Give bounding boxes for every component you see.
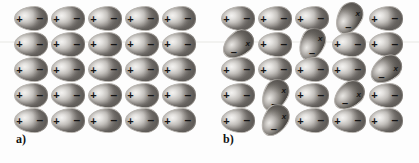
- minus-charge-icon: –: [342, 97, 348, 108]
- plus-charge-icon: +: [127, 13, 133, 24]
- plus-charge-icon: +: [164, 115, 170, 126]
- minus-charge-icon: –: [243, 12, 250, 24]
- dipole-cell: +–: [332, 108, 369, 134]
- cross-into-page-icon: x: [394, 65, 398, 73]
- dipole-cell: +–: [51, 32, 88, 58]
- plus-charge-icon: +: [90, 39, 96, 50]
- dipole-cell: +–: [51, 57, 88, 83]
- minus-charge-icon: –: [243, 89, 250, 101]
- dipole-aligned: +–: [295, 57, 329, 82]
- plus-charge-icon: +: [371, 13, 377, 24]
- plus-charge-icon: +: [16, 115, 22, 126]
- dipole-aligned: +–: [369, 108, 403, 133]
- dipole-aligned: +–: [125, 57, 159, 82]
- plus-charge-icon: +: [260, 13, 266, 24]
- dipole-aligned: +–: [125, 108, 159, 133]
- dipole-aligned: +–: [14, 57, 48, 82]
- dipole-cell: +–: [369, 83, 406, 109]
- dipole-cell: +–: [51, 6, 88, 32]
- dipole-aligned: +–: [51, 108, 85, 133]
- plus-charge-icon: +: [164, 39, 170, 50]
- dipole-aligned: +–: [162, 57, 196, 82]
- plus-charge-icon: +: [16, 39, 22, 50]
- dipole-cell: +–: [369, 6, 406, 32]
- dipole-cell: +–: [125, 57, 162, 83]
- minus-charge-icon: –: [280, 63, 287, 75]
- dipole-cell: –x: [258, 108, 295, 134]
- minus-charge-icon: –: [184, 89, 191, 101]
- plus-charge-icon: +: [371, 115, 377, 126]
- minus-charge-icon: –: [391, 89, 398, 101]
- dipole-aligned: +–: [162, 83, 196, 108]
- minus-charge-icon: –: [36, 63, 43, 75]
- dipole-aligned: +–: [88, 108, 122, 133]
- minus-charge-icon: –: [230, 46, 236, 57]
- panel-b-label: b): [223, 132, 234, 147]
- plus-charge-icon: +: [297, 90, 303, 101]
- cross-into-page-icon: x: [246, 39, 250, 47]
- minus-charge-icon: –: [317, 63, 324, 75]
- plus-charge-icon: +: [53, 64, 59, 75]
- plus-charge-icon: +: [90, 13, 96, 24]
- minus-charge-icon: –: [354, 114, 361, 126]
- plus-charge-icon: +: [53, 90, 59, 101]
- dipole-cell: +–: [162, 6, 199, 32]
- plus-charge-icon: +: [53, 13, 59, 24]
- dipole-cell: –x: [332, 83, 369, 109]
- minus-charge-icon: –: [73, 12, 80, 24]
- minus-charge-icon: –: [391, 38, 398, 50]
- plus-charge-icon: +: [164, 13, 170, 24]
- dipole-cell: +–: [332, 32, 369, 58]
- minus-charge-icon: –: [243, 114, 250, 126]
- dipole-aligned: +–: [14, 32, 48, 57]
- plus-charge-icon: +: [53, 115, 59, 126]
- dipole-cell: +–: [14, 83, 51, 109]
- minus-charge-icon: –: [147, 114, 154, 126]
- plus-charge-icon: +: [16, 90, 22, 101]
- minus-charge-icon: –: [280, 38, 287, 50]
- minus-charge-icon: –: [317, 114, 324, 126]
- plus-charge-icon: +: [223, 90, 229, 101]
- dipole-aligned: +–: [88, 32, 122, 57]
- dipole-aligned: +–: [51, 32, 85, 57]
- dipole-cell: +–: [258, 32, 295, 58]
- plus-charge-icon: +: [127, 39, 133, 50]
- minus-charge-icon: –: [36, 38, 43, 50]
- dipole-aligned: +–: [88, 83, 122, 108]
- dipole-cell: +–: [295, 83, 332, 109]
- dipole-cell: +–: [125, 108, 162, 134]
- plus-charge-icon: +: [334, 39, 340, 50]
- dipole-aligned: +–: [369, 83, 403, 108]
- dipole-aligned: +–: [51, 83, 85, 108]
- dipole-cell: +–: [14, 57, 51, 83]
- dipole-aligned: +–: [125, 32, 159, 57]
- panel-b: +–+–+––x+––x+––x+–+–+–+–+–+––x+––x+––x+–…: [221, 0, 407, 130]
- cross-into-page-icon: x: [355, 10, 359, 18]
- plus-charge-icon: +: [260, 64, 266, 75]
- dipole-aligned: +–: [162, 108, 196, 133]
- dipole-cell: +–: [162, 108, 199, 134]
- minus-charge-icon: –: [147, 63, 154, 75]
- plus-charge-icon: +: [16, 64, 22, 75]
- minus-charge-icon: –: [280, 12, 287, 24]
- dipole-aligned: +–: [162, 32, 196, 57]
- minus-charge-icon: –: [147, 89, 154, 101]
- dipole-cell: –x: [221, 32, 258, 58]
- minus-charge-icon: –: [110, 12, 117, 24]
- minus-charge-icon: –: [184, 63, 191, 75]
- dipole-grid-b: +–+–+––x+––x+––x+–+–+–+–+–+––x+––x+––x+–…: [221, 0, 407, 130]
- panel-a-label: a): [16, 132, 26, 147]
- dipole-aligned: +–: [125, 83, 159, 108]
- dipole-aligned: +–: [295, 108, 329, 133]
- minus-charge-icon: –: [391, 12, 398, 24]
- dipole-aligned: +–: [221, 108, 255, 133]
- minus-charge-icon: –: [110, 114, 117, 126]
- dipole-cell: +–: [162, 32, 199, 58]
- cross-into-page-icon: x: [318, 35, 322, 43]
- minus-charge-icon: –: [147, 38, 154, 50]
- dipole-cell: +–: [162, 57, 199, 83]
- minus-charge-icon: –: [391, 114, 398, 126]
- plus-charge-icon: +: [90, 64, 96, 75]
- dipole-cell: +–: [88, 32, 125, 58]
- dipole-cell: +–: [14, 108, 51, 134]
